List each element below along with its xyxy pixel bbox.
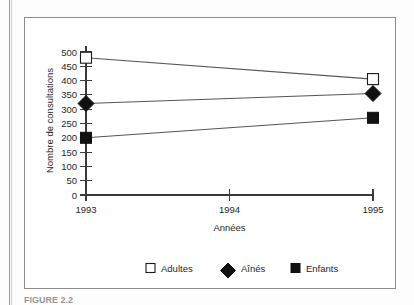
y-tick-label: 450 (61, 61, 77, 72)
data-point-adultes-1995 (368, 74, 379, 85)
y-tick-label: 50 (66, 175, 77, 186)
legend-label-enfants: Enfants (306, 263, 338, 274)
data-point-aines-1995 (365, 86, 381, 102)
y-axis-title: Nombre de consultations (44, 68, 55, 173)
page-margin-rule-secondary (11, 0, 12, 305)
series-lines (86, 58, 373, 138)
y-tick-label: 200 (61, 132, 77, 143)
y-tick-labels: 500 450 400 350 300 250 200 150 100 50 0 (61, 47, 77, 201)
data-point-adultes-1993 (81, 52, 92, 63)
legend-label-aines: Aînés (241, 263, 266, 274)
chart-legend: Adultes Aînés Enfants (146, 263, 338, 279)
chart-plot-area: 500 450 400 350 300 250 200 150 100 50 0 (25, 18, 397, 290)
series-line-aines (86, 94, 373, 104)
figure-frame: 500 450 400 350 300 250 200 150 100 50 0 (24, 17, 396, 289)
figure-caption: FIGURE 2.2 (24, 297, 73, 305)
y-tick-label: 250 (61, 118, 77, 129)
y-tick-label: 300 (61, 104, 77, 115)
y-tick-label: 150 (61, 147, 77, 158)
figure-caption-strip: FIGURE 2.2 (24, 297, 396, 305)
legend-marker-filled-square (291, 264, 300, 273)
figure-page: 500 450 400 350 300 250 200 150 100 50 0 (0, 0, 414, 305)
line-chart: 500 450 400 350 300 250 200 150 100 50 0 (25, 18, 397, 290)
series-line-enfants (86, 118, 373, 138)
y-tick-label: 0 (72, 190, 77, 201)
x-tick-labels: 1993 1994 1995 (75, 204, 383, 215)
x-axis-title: Années (213, 222, 245, 233)
y-tick-label: 350 (61, 89, 77, 100)
x-tick-label: 1995 (362, 204, 383, 215)
y-tick-label: 100 (61, 161, 77, 172)
data-point-enfants-1995 (368, 112, 379, 123)
page-margin-rule (9, 0, 10, 305)
data-point-enfants-1993 (81, 132, 92, 143)
x-tick-label: 1993 (75, 204, 96, 215)
x-tick-label: 1994 (219, 204, 240, 215)
y-tick-label: 500 (61, 47, 77, 58)
legend-label-adultes: Adultes (161, 263, 193, 274)
series-line-adultes (86, 58, 373, 79)
y-tick-label: 400 (61, 75, 77, 86)
legend-marker-open-square (146, 264, 155, 273)
legend-marker-filled-diamond (221, 263, 236, 278)
